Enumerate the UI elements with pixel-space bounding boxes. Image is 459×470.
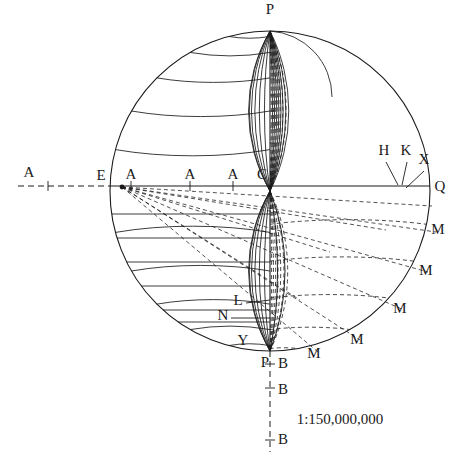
- label-equator-A2: A: [185, 166, 196, 182]
- dashed-parallel-lower-right-60: [270, 327, 350, 329]
- label-pole-top-P: P: [266, 1, 274, 17]
- label-rim-M3: M: [393, 300, 406, 316]
- projection-diagram: PPQAEAAACHKXLNYMMMMMBBB1:150,000,000: [0, 0, 459, 470]
- label-rim-M2: M: [419, 262, 432, 278]
- label-L: L: [233, 292, 242, 308]
- parallel-lower-left-60: [190, 326, 270, 329]
- label-rim-M5: M: [307, 345, 320, 361]
- dashed-parallel-lower-right-42: [270, 295, 389, 299]
- label-equator-E: E: [96, 167, 105, 183]
- parallel-lower-left-15: [115, 226, 270, 232]
- dashed-ray-from-E-5: [122, 187, 318, 352]
- dashed-parallel-lower-right-80: [270, 348, 298, 349]
- label-ray-X: X: [419, 151, 430, 167]
- dashed-ray-from-E-1: [122, 187, 436, 232]
- label-outer-A: A: [24, 164, 35, 180]
- dashed-ray-from-E-0: [122, 187, 432, 206]
- label-rim-M4: M: [350, 331, 363, 347]
- dashed-ray-from-E-7: [122, 187, 330, 252]
- dashed-parallel-lower-right-26: [270, 257, 414, 261]
- figure-canvas: PPQAEAAACHKXLNYMMMMMBBB1:150,000,000: [0, 0, 459, 470]
- label-equator-A1: A: [126, 166, 137, 182]
- label-Y: Y: [238, 332, 249, 348]
- label-N: N: [218, 307, 229, 323]
- parallel-lower-left-75: [229, 344, 270, 346]
- label-axis-B3: B: [278, 431, 288, 447]
- label-axis-B1: B: [278, 355, 288, 371]
- parallel-upper-left-75: [229, 36, 270, 38]
- label-equator-Q: Q: [435, 178, 446, 194]
- label-ray-K: K: [401, 142, 412, 158]
- label-equator-A3: A: [228, 166, 239, 182]
- scale-text: 1:150,000,000: [297, 411, 384, 427]
- leader-line-K: [402, 162, 407, 185]
- parallel-upper-left-15: [115, 150, 270, 156]
- label-equator-C: C: [257, 166, 267, 182]
- label-pole-bottom-P: P: [261, 354, 269, 370]
- dashed-ray-from-E-2: [122, 187, 428, 272]
- label-rim-M1: M: [431, 221, 444, 237]
- dashed-parallel-lower-right-12: [270, 220, 427, 225]
- label-axis-B2: B: [278, 381, 288, 397]
- label-ray-H: H: [379, 142, 390, 158]
- parallel-upper-left-45: [157, 78, 270, 83]
- leader-line-H: [386, 162, 398, 185]
- parallel-upper-left-60: [190, 52, 270, 55]
